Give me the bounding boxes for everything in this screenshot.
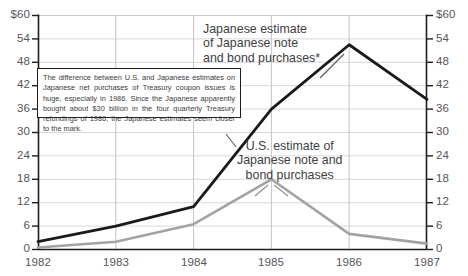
y-axis-label-right-30: 30 xyxy=(436,126,468,138)
y-axis-label-right-60: $60 xyxy=(436,9,468,21)
x-axis-label-1982: 1982 xyxy=(16,257,60,269)
x-axis-label-1983: 1983 xyxy=(94,257,138,269)
y-axis-label-left-60: $60 xyxy=(0,9,30,21)
y-axis-label-right-42: 42 xyxy=(436,79,468,91)
y-axis-label-left-0: 0 xyxy=(0,243,30,255)
leader-line-us-upper xyxy=(226,134,236,147)
y-axis-label-left-36: 36 xyxy=(0,103,30,115)
series-line-us-estimate xyxy=(38,179,427,247)
y-axis-label-right-24: 24 xyxy=(436,150,468,162)
annotation-us-estimate: U.S. estimate of Japanese note and bond … xyxy=(237,139,342,182)
y-axis-label-left-48: 48 xyxy=(0,56,30,68)
y-axis-label-left-54: 54 xyxy=(0,33,30,45)
x-axis-label-1986: 1986 xyxy=(327,257,371,269)
chart-container: $60 54 48 42 36 30 24 18 12 6 0 $60 54 4… xyxy=(0,0,468,276)
tick-marks-left xyxy=(32,16,38,250)
y-axis-label-left-6: 6 xyxy=(0,220,30,232)
y-axis-label-left-30: 30 xyxy=(0,126,30,138)
annotation-japanese-estimate: Japanese estimate of Japanese note and b… xyxy=(203,22,320,65)
tick-marks-right xyxy=(427,16,433,250)
y-axis-label-left-42: 42 xyxy=(0,79,30,91)
y-axis-label-left-24: 24 xyxy=(0,150,30,162)
y-axis-label-right-36: 36 xyxy=(436,103,468,115)
x-axis-label-1985: 1985 xyxy=(249,257,293,269)
chart-note-box: The difference between U.S. and Japanese… xyxy=(37,68,241,118)
x-axis-label-1987: 1987 xyxy=(405,257,449,269)
y-axis-label-left-18: 18 xyxy=(0,173,30,185)
y-axis-label-right-18: 18 xyxy=(436,173,468,185)
y-axis-label-right-48: 48 xyxy=(436,56,468,68)
chart-note-text: The difference between U.S. and Japanese… xyxy=(43,73,235,135)
y-axis-label-right-6: 6 xyxy=(436,220,468,232)
y-axis-label-right-12: 12 xyxy=(436,196,468,208)
y-axis-label-right-54: 54 xyxy=(436,33,468,45)
x-axis-label-1984: 1984 xyxy=(172,257,216,269)
y-axis-label-left-12: 12 xyxy=(0,196,30,208)
y-axis-label-right-0: 0 xyxy=(436,243,468,255)
